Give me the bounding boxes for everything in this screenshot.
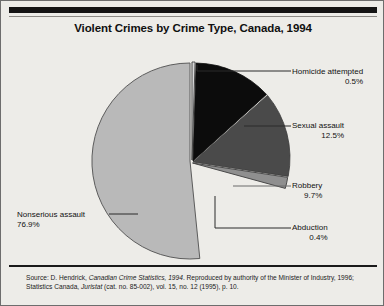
top-rule-thick <box>9 7 377 13</box>
source-suffix: . Reproduced by authority of the Ministe… <box>183 274 354 281</box>
callout-nonserious-assault-pct: 76.9% <box>17 220 85 230</box>
top-rule-thin <box>9 16 377 17</box>
callout-sexual-assault-name: Sexual assault <box>292 121 344 130</box>
figure-panel: Violent Crimes by Crime Type, Canada, 19… <box>0 0 384 306</box>
source-journal-italic: Juristat <box>81 283 102 290</box>
source-agency: Statistics Canada, <box>26 283 81 290</box>
callout-robbery: Robbery 9.7% <box>292 181 322 201</box>
leader-line-abduction <box>215 196 291 228</box>
callout-abduction-pct: 0.4% <box>292 233 328 243</box>
callout-homicide-attempted-name: Homicide attempted <box>292 67 363 76</box>
callout-sexual-assault-pct: 12.5% <box>292 131 344 141</box>
page-title: Violent Crimes by Crime Type, Canada, 19… <box>1 22 384 34</box>
callout-abduction-name: Abduction <box>292 223 328 232</box>
callout-robbery-name: Robbery <box>292 181 322 190</box>
callout-nonserious-assault: Nonserious assault 76.9% <box>17 210 85 230</box>
callout-homicide-attempted-pct: 0.5% <box>292 77 363 87</box>
callout-nonserious-assault-name: Nonserious assault <box>17 210 85 219</box>
callout-robbery-pct: 9.7% <box>292 191 322 201</box>
source-title-italic: Canadian Crime Statistics, 1994 <box>89 274 183 281</box>
pie-slice-nonserious-assault[interactable] <box>92 63 200 259</box>
callout-abduction: Abduction 0.4% <box>292 223 328 243</box>
source-prefix: Source: D. Hendrick, <box>26 274 89 281</box>
source-line-2: Statistics Canada, Juristat (cat. no. 85… <box>26 283 239 290</box>
source-note: Source: D. Hendrick, Canadian Crime Stat… <box>26 273 366 291</box>
source-citation: (cat. no. 85-002), vol. 15, no. 12 (1995… <box>102 283 238 290</box>
bottom-rule <box>9 265 377 267</box>
source-line-1: Source: D. Hendrick, Canadian Crime Stat… <box>26 274 354 281</box>
callout-homicide-attempted: Homicide attempted 0.5% <box>292 67 363 87</box>
callout-sexual-assault: Sexual assault 12.5% <box>292 121 344 141</box>
